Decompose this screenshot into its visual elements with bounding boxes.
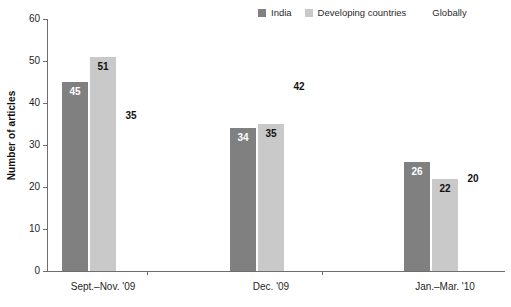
x-axis-line [47, 271, 505, 272]
bar[interactable]: 35 [258, 124, 284, 271]
y-tick-label: 20 [29, 181, 40, 192]
y-tick-mark: 30 [43, 145, 47, 146]
y-axis-title: Number of articles [2, 0, 22, 271]
bar-value-label: 22 [432, 183, 458, 194]
bar[interactable]: 34 [230, 128, 256, 271]
legend-label: Developing countries [318, 8, 407, 18]
x-tick-mark [147, 271, 148, 275]
legend-swatch-icon [258, 9, 266, 17]
bar-chart: IndiaDeveloping countriesGlobally Number… [0, 0, 511, 307]
y-tick-label: 30 [29, 139, 40, 150]
legend-item-developing-countries[interactable]: Developing countries [305, 8, 407, 18]
x-axis-group-label: Dec. '09 [191, 281, 351, 292]
y-tick-label: 0 [34, 265, 40, 276]
x-axis-group-label: Sept.–Nov. '09 [23, 281, 183, 292]
y-tick-mark: 20 [43, 187, 47, 188]
y-tick-label: 40 [29, 97, 40, 108]
y-tick-mark: 50 [43, 61, 47, 62]
bar[interactable]: 42 [286, 95, 312, 271]
bar-value-label: 20 [460, 173, 486, 184]
legend-item-india[interactable]: India [258, 8, 292, 18]
bar[interactable]: 26 [404, 162, 430, 271]
chart-legend: IndiaDeveloping countriesGlobally [258, 8, 480, 18]
x-axis-group-label: Jan.–Mar. '10 [365, 281, 511, 292]
y-tick-mark: 60 [43, 19, 47, 20]
y-tick-label: 60 [29, 13, 40, 24]
bar-value-label: 42 [286, 81, 312, 92]
bar-value-label: 45 [62, 86, 88, 97]
y-axis-line [47, 19, 48, 271]
bar-value-label: 34 [230, 132, 256, 143]
plot-area: 6050403020100 455135343542262220 [47, 19, 505, 271]
bar-value-label: 35 [258, 128, 284, 139]
bar[interactable]: 35 [118, 124, 144, 271]
bar-value-label: 51 [90, 61, 116, 72]
bar[interactable]: 22 [432, 179, 458, 271]
legend-label: India [271, 8, 292, 18]
y-axis-title-text: Number of articles [7, 91, 18, 181]
legend-item-globally[interactable]: Globally [419, 8, 466, 18]
y-tick-mark: 40 [43, 103, 47, 104]
bar-value-label: 26 [404, 166, 430, 177]
bar[interactable]: 45 [62, 82, 88, 271]
y-tick-label: 10 [29, 223, 40, 234]
y-tick-mark: 10 [43, 229, 47, 230]
bar[interactable]: 20 [460, 187, 486, 271]
legend-swatch-icon [419, 9, 427, 17]
bar[interactable]: 51 [90, 57, 116, 271]
y-tick-mark: 0 [43, 271, 47, 272]
legend-swatch-icon [305, 9, 313, 17]
legend-label: Globally [432, 8, 466, 18]
x-tick-mark [322, 271, 323, 275]
y-tick-label: 50 [29, 55, 40, 66]
bar-value-label: 35 [118, 110, 144, 121]
